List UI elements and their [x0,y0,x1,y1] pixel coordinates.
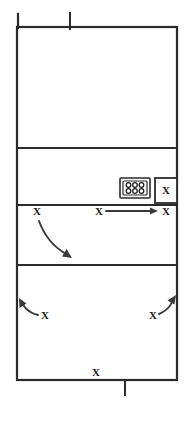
player-marker-right-attack: X [162,205,170,217]
player-marker-back-left: X [41,309,49,321]
player-marker-left-attack: X [33,205,41,217]
player-marker-mid-attack: X [95,205,103,217]
player-marker-back-right: X [149,309,157,321]
court-diagram-canvas: X X X X X X X [0,0,193,422]
court-diagram: X X X X X X X [0,0,193,422]
player-marker-sub: X [162,184,170,196]
player-marker-baseline: X [92,366,100,378]
court-surface [17,27,177,380]
ball-cart-icon [120,178,150,198]
